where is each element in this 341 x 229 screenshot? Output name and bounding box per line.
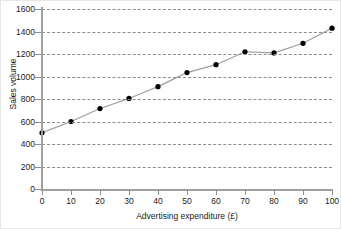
y-tick-label-0: 0	[3, 185, 35, 194]
x-tick-mark-20	[100, 190, 101, 195]
plot-area	[42, 9, 332, 189]
x-tick-label-60: 60	[211, 197, 220, 206]
gridline-y-400	[42, 144, 332, 145]
y-tick-mark-1400	[35, 32, 42, 33]
x-tick-label-100: 100	[325, 197, 339, 206]
y-tick-mark-200	[35, 167, 42, 168]
x-tick-mark-70	[245, 190, 246, 195]
x-tick-mark-30	[129, 190, 130, 195]
gridline-y-600	[42, 122, 332, 123]
x-tick-label-30: 30	[124, 197, 133, 206]
scatter-line-chart-figure: 02004006008001000120014001600 Sales volu…	[0, 0, 341, 229]
x-tick-mark-100	[332, 190, 333, 195]
data-point-marker	[155, 84, 160, 89]
y-tick-mark-1200	[35, 54, 42, 55]
y-tick-label-1600: 1600	[3, 5, 35, 14]
x-tick-label-80: 80	[269, 197, 278, 206]
y-tick-mark-1000	[35, 77, 42, 78]
series-marker-group	[39, 26, 334, 136]
y-tick-mark-600	[35, 122, 42, 123]
y-axis-tick-label-group: 02004006008001000120014001600	[1, 1, 35, 229]
data-point-marker	[184, 70, 189, 75]
x-tick-mark-80	[274, 190, 275, 195]
gridline-y-1400	[42, 32, 332, 33]
x-tick-mark-50	[187, 190, 188, 195]
x-axis-title: Advertising expenditure (£)	[42, 211, 332, 221]
x-tick-label-70: 70	[240, 197, 249, 206]
y-tick-mark-800	[35, 99, 42, 100]
x-tick-mark-40	[158, 190, 159, 195]
y-tick-label-200: 200	[3, 162, 35, 171]
x-tick-mark-10	[71, 190, 72, 195]
x-tick-label-50: 50	[182, 197, 191, 206]
gridline-y-800	[42, 99, 332, 100]
data-point-marker	[300, 41, 305, 46]
x-tick-mark-0	[42, 190, 43, 195]
x-tick-label-10: 10	[66, 197, 75, 206]
series-line-path	[42, 28, 332, 133]
x-tick-label-40: 40	[153, 197, 162, 206]
gridline-y-200	[42, 167, 332, 168]
gridline-y-1200	[42, 54, 332, 55]
gridline-y-1000	[42, 77, 332, 78]
y-tick-mark-400	[35, 144, 42, 145]
data-point-marker	[97, 106, 102, 111]
x-tick-label-0: 0	[40, 197, 45, 206]
y-tick-label-1400: 1400	[3, 27, 35, 36]
x-tick-label-20: 20	[95, 197, 104, 206]
x-tick-mark-90	[303, 190, 304, 195]
y-tick-mark-0	[35, 189, 42, 190]
x-tick-mark-60	[216, 190, 217, 195]
y-axis-title: Sales volume	[8, 46, 18, 122]
y-tick-mark-1600	[35, 9, 42, 10]
gridline-y-1600	[42, 9, 332, 10]
x-tick-label-90: 90	[298, 197, 307, 206]
data-point-marker	[329, 26, 334, 31]
y-tick-label-400: 400	[3, 140, 35, 149]
data-point-marker	[213, 62, 218, 67]
